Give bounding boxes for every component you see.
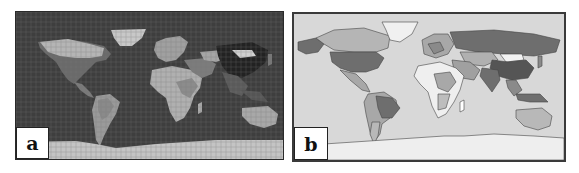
panel-label-b: b [294,127,328,160]
world-map-dark [16,12,283,159]
panel-label-a: a [16,127,49,159]
map-panel-b: b [292,12,566,162]
map-panel-a: a [15,11,284,160]
world-map-choropleth [294,14,564,160]
